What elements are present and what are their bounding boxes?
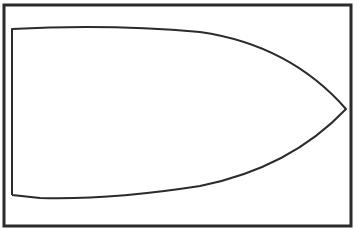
figure-canvas	[0, 0, 357, 229]
bow-outline-shape	[12, 27, 346, 198]
frame-border	[4, 5, 351, 226]
